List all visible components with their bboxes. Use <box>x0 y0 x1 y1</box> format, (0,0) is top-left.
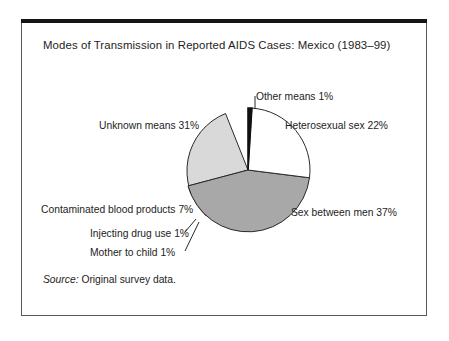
source-note: Source: Original survey data. <box>43 274 176 285</box>
pie-slice-heterosexual-sex[interactable] <box>248 108 310 178</box>
pie-label-contaminated-blood-products: Contaminated blood products 7% <box>41 205 193 215</box>
pie-label-sex-between-men: Sex between men 37% <box>291 208 397 218</box>
pie-label-other-means: Other means 1% <box>256 92 333 102</box>
pie-label-injecting-drug-use: Injecting drug use 1% <box>90 229 189 239</box>
figure-container: Modes of Transmission in Reported AIDS C… <box>0 0 449 341</box>
source-label: Source: <box>43 274 79 285</box>
pie-label-heterosexual-sex: Heterosexual sex 22% <box>285 121 388 131</box>
source-text: Original survey data. <box>81 274 175 285</box>
pie-label-unknown-means: Unknown means 31% <box>99 121 199 131</box>
pie-chart <box>0 0 449 341</box>
pie-label-mother-to-child: Mother to child 1% <box>90 248 175 258</box>
